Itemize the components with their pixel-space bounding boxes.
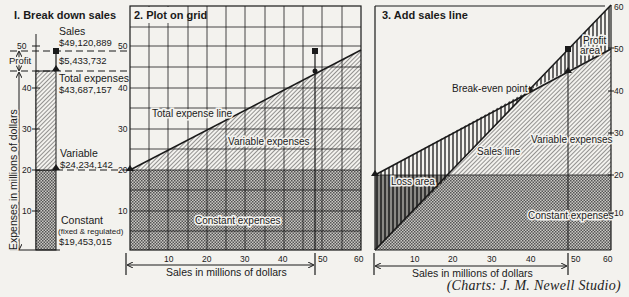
x-tick: 30 bbox=[240, 254, 250, 264]
sales-marker bbox=[53, 48, 59, 54]
x-tick: 60 bbox=[354, 254, 364, 264]
constant-expenses-label: Constant expenses bbox=[195, 215, 281, 226]
total-expense-line-label: Total expense line bbox=[152, 108, 232, 119]
variable-expenses-label: Variable expenses bbox=[228, 136, 310, 147]
variable-expenses-label: Variable expenses bbox=[531, 134, 613, 145]
panel-plot-on-grid: 2. Plot on grid Total expense line Varia… bbox=[118, 6, 364, 278]
y-tick: 50 bbox=[118, 41, 128, 51]
sales-point bbox=[565, 46, 571, 52]
variable-value: $24,234,142 bbox=[60, 159, 113, 170]
sales-point bbox=[312, 48, 318, 54]
y-tick: 30 bbox=[118, 124, 128, 134]
break-even-label: Break-even point bbox=[452, 83, 528, 94]
y-tick: 40 bbox=[614, 86, 624, 96]
sales-value: $49,120,889 bbox=[59, 37, 112, 48]
y-tick: 50 bbox=[614, 44, 624, 54]
constant-label: Constant bbox=[61, 214, 103, 226]
y-tick: 30 bbox=[22, 124, 32, 134]
profit-label: Profit bbox=[9, 55, 32, 66]
panel-break-down-sales: I. Break down sales 10 20 30 40 50 Profi… bbox=[7, 9, 130, 250]
loss-area-label: Loss area bbox=[391, 176, 435, 187]
panel-add-sales-line: 3. Add sales line Break-even point Sales… bbox=[371, 2, 624, 279]
x-axis-label: Sales in millions of dollars bbox=[166, 266, 287, 278]
y-tick: 20 bbox=[614, 170, 624, 180]
y-tick: 20 bbox=[22, 165, 32, 175]
y-tick: 30 bbox=[614, 128, 624, 138]
x-tick: 30 bbox=[487, 254, 497, 264]
x-tick: 50 bbox=[571, 254, 581, 264]
profit-value: $5,433,732 bbox=[59, 55, 107, 66]
x-tick: 10 bbox=[164, 254, 174, 264]
constant-sublabel: (fixed & regulated) bbox=[58, 227, 124, 236]
profit-area-label-2: area bbox=[580, 45, 600, 56]
y-tick: 10 bbox=[614, 208, 624, 218]
x-tick: 60 bbox=[603, 254, 613, 264]
constant-bar-segment bbox=[36, 170, 56, 250]
panel2-title: 2. Plot on grid bbox=[134, 9, 207, 21]
variable-label: Variable bbox=[60, 147, 98, 159]
sales-label: Sales bbox=[59, 25, 85, 37]
chart-credit: (Charts: J. M. Newell Studio) bbox=[447, 278, 621, 294]
sales-line-label: Sales line bbox=[477, 146, 521, 157]
y-tick: 10 bbox=[118, 206, 128, 216]
y-tick: 20 bbox=[118, 165, 128, 175]
y-tick: 60 bbox=[614, 2, 624, 12]
constant-expenses-area bbox=[130, 170, 361, 250]
total-expenses-value: $43,687,157 bbox=[59, 84, 112, 95]
y-tick: 40 bbox=[22, 83, 32, 93]
break-even-charts: I. Break down sales 10 20 30 40 50 Profi… bbox=[0, 0, 629, 297]
x-tick: 20 bbox=[202, 254, 212, 264]
x-tick: 40 bbox=[526, 254, 536, 264]
y-tick: 40 bbox=[118, 83, 128, 93]
constant-expenses-label: Constant expenses bbox=[528, 210, 614, 221]
x-tick: 40 bbox=[278, 254, 288, 264]
y-tick: 10 bbox=[22, 206, 32, 216]
total-expenses-point bbox=[313, 69, 318, 74]
x-tick: 20 bbox=[448, 254, 458, 264]
constant-value: $19,453,015 bbox=[59, 236, 112, 247]
x-tick: 10 bbox=[410, 254, 420, 264]
y-axis-label: Expenses in millions of dollars bbox=[7, 109, 19, 250]
panel1-title: I. Break down sales bbox=[14, 9, 116, 21]
y-tick: 50 bbox=[17, 41, 27, 51]
x-tick: 50 bbox=[318, 254, 328, 264]
panel3-title: 3. Add sales line bbox=[382, 9, 468, 21]
variable-bar-segment bbox=[36, 71, 56, 170]
